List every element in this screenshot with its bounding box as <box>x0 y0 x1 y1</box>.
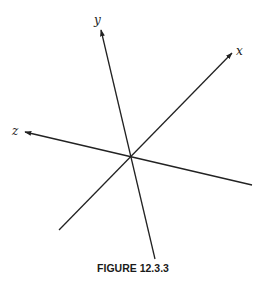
z-axis-label: z <box>12 125 18 137</box>
y-axis-label: y <box>94 14 101 26</box>
coordinate-axes-figure: y x z FIGURE 12.3.3 <box>0 0 262 284</box>
figure-caption: FIGURE 12.3.3 <box>0 262 262 274</box>
x-axis-label: x <box>236 45 243 57</box>
x-axis-line <box>59 53 232 230</box>
y-axis-line <box>101 30 155 259</box>
axes-diagram <box>0 0 262 284</box>
z-axis-line <box>25 132 252 185</box>
